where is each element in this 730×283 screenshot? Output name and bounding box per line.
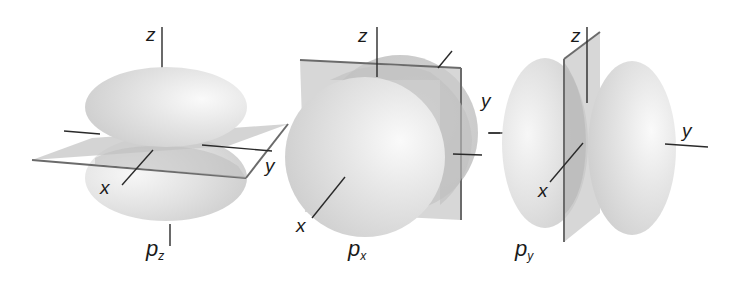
x-axis-back-line: [438, 51, 452, 68]
y-axis-label: y: [479, 90, 492, 111]
y-axis-label: y: [680, 120, 693, 141]
x-axis-label: x: [295, 215, 307, 236]
orbital-label-py: py: [514, 236, 534, 263]
panel-pz: z y x pz: [32, 24, 288, 263]
z-axis-label: z: [570, 25, 581, 46]
lobe-front: [285, 77, 445, 237]
orbital-label-px: px: [347, 236, 367, 263]
y-axis-back-line: [64, 131, 100, 134]
x-axis-label: x: [99, 177, 111, 198]
lobe-top: [85, 67, 247, 147]
y-axis-label: y: [263, 155, 276, 176]
z-axis-label: z: [357, 25, 368, 46]
panel-py: z x y py: [489, 25, 708, 263]
lobe-right: [588, 61, 676, 235]
panel-px: z y x px: [285, 25, 500, 263]
y-axis-line: [453, 154, 482, 155]
orbital-label-pz: pz: [145, 236, 164, 263]
z-axis-label: z: [145, 24, 156, 45]
x-axis-label: x: [537, 180, 549, 201]
p-orbitals-diagram: z y x pz z: [0, 0, 730, 283]
